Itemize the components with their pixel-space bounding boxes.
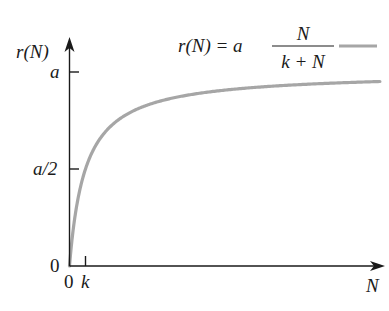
legend: r(N) = a N k + N: [178, 23, 377, 72]
x-tick-label-zero: 0: [64, 271, 74, 292]
legend-denominator: k + N: [281, 51, 326, 72]
y-tick-label-a: a: [50, 61, 60, 82]
y-tick-label-half: a/2: [33, 158, 58, 179]
legend-equation-lhs: r(N) = a: [178, 35, 243, 57]
y-axis-label: r(N): [16, 41, 49, 63]
x-tick-label-k: k: [81, 271, 90, 292]
x-axis-label: N: [365, 275, 380, 296]
legend-numerator: N: [296, 23, 311, 44]
chart: r(N) a a/2 0 0 k N r(N) = a N k + N: [0, 0, 389, 311]
y-tick-label-zero: 0: [50, 255, 60, 276]
saturation-curve: [70, 82, 380, 266]
